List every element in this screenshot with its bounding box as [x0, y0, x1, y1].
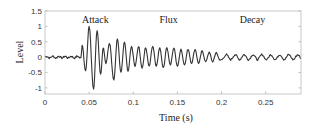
- annotation-attack: Attack: [82, 14, 109, 25]
- y-tick-label: 1: [38, 22, 43, 31]
- y-tick-label: -0.5: [28, 68, 42, 77]
- signal-line: [45, 26, 301, 89]
- x-tick-label: 0.05: [81, 98, 97, 107]
- y-tick-label: 0: [38, 53, 43, 62]
- x-tick-label: 0.2: [216, 98, 228, 107]
- y-tick-label: -1: [35, 84, 43, 93]
- x-tick-label: 0.25: [258, 98, 274, 107]
- x-axis-label: Time (s): [159, 112, 193, 124]
- y-tick-label: 1.5: [31, 7, 43, 16]
- y-axis-label: Level: [14, 40, 25, 63]
- annotation-flux: Flux: [159, 14, 177, 25]
- x-tick-label: 0: [43, 98, 48, 107]
- x-tick-label: 0.1: [128, 98, 140, 107]
- y-tick-label: 0.5: [31, 38, 43, 47]
- x-tick-label: 0.15: [170, 98, 186, 107]
- waveform-chart: 00.050.10.150.20.251.510.50-0.5-1 Attack…: [0, 0, 316, 132]
- annotation-decay: Decay: [240, 14, 266, 25]
